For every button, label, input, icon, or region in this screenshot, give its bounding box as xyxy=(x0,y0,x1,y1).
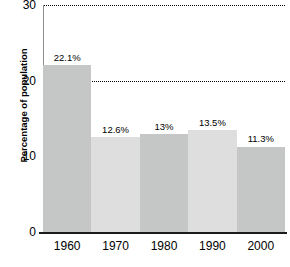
y-axis-title: Percentage of population xyxy=(18,21,29,191)
bar-1960 xyxy=(43,65,91,232)
bar-1970 xyxy=(91,137,139,232)
bar-value-label: 22.1% xyxy=(43,53,91,63)
bar-value-label: 13% xyxy=(140,122,188,132)
bar-value-label: 12.6% xyxy=(91,125,139,135)
x-tick-label: 2000 xyxy=(237,240,285,253)
bar-value-label: 13.5% xyxy=(188,118,236,128)
x-tick-label: 1990 xyxy=(188,240,236,253)
x-tick-label: 1980 xyxy=(140,240,188,253)
y-tick-label: 20 xyxy=(0,76,36,86)
bar-chart: Percentage of population 0102030 22.1%12… xyxy=(0,0,290,267)
bar-series xyxy=(43,5,285,232)
x-axis-baseline xyxy=(39,232,287,234)
y-tick-label: 30 xyxy=(0,0,36,10)
bar-1980 xyxy=(140,134,188,232)
x-tick-label: 1970 xyxy=(91,240,139,253)
bar-1990 xyxy=(188,130,236,232)
x-tick-label: 1960 xyxy=(43,240,91,253)
bar-value-label: 11.3% xyxy=(237,134,285,144)
bar-2000 xyxy=(237,147,285,233)
y-tick-label: 10 xyxy=(0,151,36,161)
y-tick-label: 0 xyxy=(0,227,36,237)
